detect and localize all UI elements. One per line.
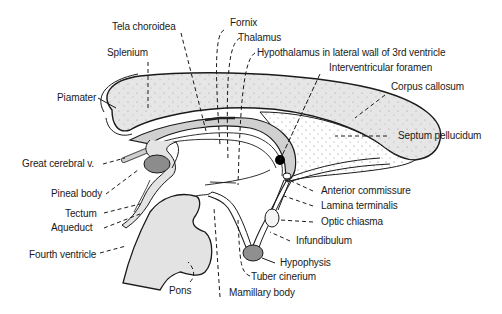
label-piamater: Piamater xyxy=(57,92,96,104)
label-fornix: Fornix xyxy=(230,17,257,29)
label-optic-chiasma: Optic chiasma xyxy=(321,216,383,228)
label-hypothalamus: Hypothalamus in lateral wall of 3rd vent… xyxy=(257,47,445,59)
label-splenium: Splenium xyxy=(107,47,148,59)
label-infundibulum: Infundibulum xyxy=(296,235,352,247)
label-pineal-body: Pineal body xyxy=(51,188,102,200)
label-fourth-ventricle: Fourth ventricle xyxy=(29,249,96,261)
label-tela-choroidea: Tela choroidea xyxy=(112,21,176,33)
hypophysis-shape xyxy=(243,245,263,261)
anterior-commissure-shape xyxy=(283,173,291,179)
label-corpus-callosum: Corpus callosum xyxy=(391,81,464,93)
label-aqueduct: Aqueduct xyxy=(51,222,92,234)
brain-sagittal-diagram: Tela choroidea Fornix Thalamus Splenium … xyxy=(0,0,502,314)
label-pons: Pons xyxy=(169,285,191,297)
label-great-cerebral-v: Great cerebral v. xyxy=(22,158,94,170)
label-hypophysis: Hypophysis xyxy=(280,257,331,269)
label-septum-pellucidum: Septum pellucidum xyxy=(398,130,481,142)
label-tectum: Tectum xyxy=(65,208,97,220)
pineal-body-shape xyxy=(144,155,170,173)
label-tuber-cinerium: Tuber cinerium xyxy=(251,271,316,283)
optic-chiasma-shape xyxy=(265,209,279,227)
label-thalamus: Thalamus xyxy=(238,32,281,44)
label-mamillary-body: Mamillary body xyxy=(229,287,295,299)
label-anterior-commissure: Anterior commissure xyxy=(321,185,411,197)
label-lamina-terminalis: Lamina terminalis xyxy=(321,200,398,212)
label-interventricular-foramen: Interventricular foramen xyxy=(329,62,432,74)
lamina-terminalis-shape xyxy=(272,180,290,210)
